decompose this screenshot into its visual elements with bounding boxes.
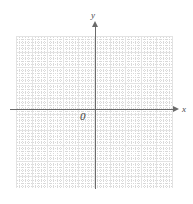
major-gridline-vertical	[172, 36, 173, 188]
coordinate-plane-figure: y x 0	[0, 0, 193, 204]
x-axis-arrow-icon	[173, 106, 179, 112]
major-gridline-vertical	[141, 36, 142, 188]
x-axis-line	[10, 109, 175, 110]
y-axis-arrow-icon	[92, 21, 98, 27]
y-axis-label: y	[91, 11, 95, 20]
origin-label: 0	[80, 111, 86, 122]
x-axis-label: x	[182, 105, 186, 114]
major-gridline-vertical	[125, 36, 126, 188]
major-gridline-vertical	[16, 36, 17, 188]
major-gridline-vertical	[63, 36, 64, 188]
major-gridline-vertical	[47, 36, 48, 188]
major-gridline-vertical	[110, 36, 111, 188]
major-gridline-vertical	[156, 36, 157, 188]
y-axis-line	[95, 26, 96, 189]
major-gridline-vertical	[32, 36, 33, 188]
